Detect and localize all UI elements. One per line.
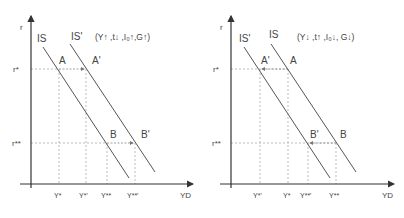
- is-prime-label: IS': [71, 31, 82, 42]
- tick-y-star-prime: Y*': [79, 192, 88, 199]
- guide-lines: [231, 69, 336, 184]
- is-prime-label: IS': [239, 33, 250, 44]
- r-star-star-label: r**: [12, 139, 21, 148]
- tick-y-star-prime: Y*': [253, 192, 262, 199]
- is-shift-right-diagram: r YD IS IS' (Y↑ ,t↓ ,I₀↑,G↑) r* r** A A'…: [0, 0, 202, 218]
- point-a-label: A: [59, 55, 66, 66]
- tick-y-star-star-prime: Y**': [127, 192, 138, 199]
- y-axis-label: r: [220, 23, 223, 32]
- x-axis-label: YD: [382, 191, 393, 200]
- tick-y-star-star: Y**: [101, 192, 111, 199]
- tick-y-star: Y*: [54, 192, 62, 199]
- tick-y-star-star: Y**: [329, 192, 339, 199]
- is-prime-curve: [244, 47, 330, 178]
- point-a-prime-label: A': [92, 55, 101, 66]
- r-star-label: r*: [213, 65, 219, 74]
- point-b-prime-label: B': [141, 129, 150, 140]
- point-a-label: A: [290, 55, 297, 66]
- is-shift-left-diagram: r YD IS' IS (Y↓ ,t↑ ,I₀↓, G↓) r* r** A' …: [202, 0, 404, 218]
- guide-lines: [31, 69, 135, 184]
- point-b-prime-label: B': [310, 129, 319, 140]
- point-b-label: B: [110, 129, 117, 140]
- tick-y-star-star-prime: Y**': [300, 192, 311, 199]
- is-label: IS: [269, 29, 279, 40]
- is-label: IS: [37, 33, 47, 44]
- point-b-label: B: [340, 129, 347, 140]
- point-a-prime-label: A': [261, 55, 270, 66]
- y-axis-label: r: [20, 23, 23, 32]
- caption: (Y↓ ,t↑ ,I₀↓, G↓): [297, 32, 355, 42]
- r-star-label: r*: [13, 65, 19, 74]
- caption: (Y↑ ,t↓ ,I₀↑,G↑): [95, 32, 150, 42]
- r-star-star-label: r**: [212, 139, 221, 148]
- tick-y-star: Y*: [283, 192, 291, 199]
- x-axis-label: YD: [180, 191, 191, 200]
